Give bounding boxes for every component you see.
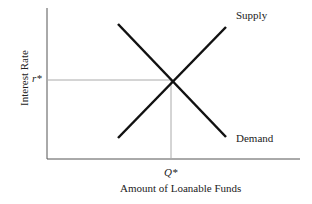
y-axis-label: Interest Rate — [18, 38, 30, 118]
diagram-canvas — [0, 0, 312, 204]
demand-label: Demand — [236, 132, 273, 144]
q-star-label: Q* — [164, 166, 177, 178]
supply-label: Supply — [236, 9, 267, 21]
x-axis-label: Amount of Loanable Funds — [120, 182, 241, 194]
r-star-label: r* — [32, 72, 42, 84]
